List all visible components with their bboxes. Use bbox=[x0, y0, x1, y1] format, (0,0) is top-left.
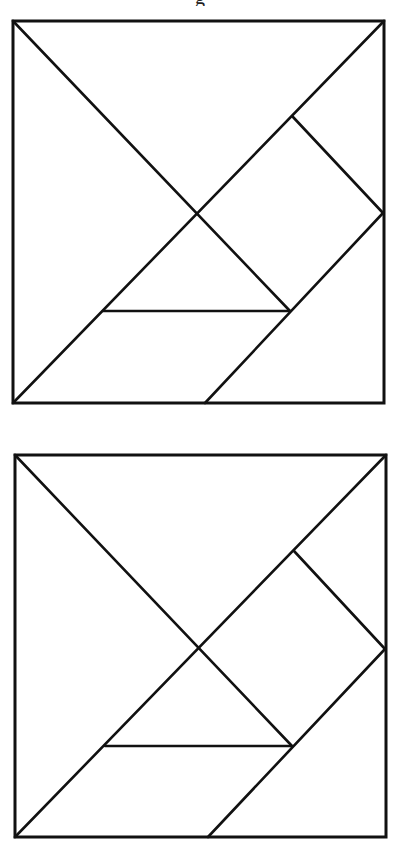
tangram-square-2 bbox=[15, 455, 386, 837]
tangram-square-1 bbox=[13, 21, 384, 403]
tangram-diagram bbox=[0, 0, 400, 846]
